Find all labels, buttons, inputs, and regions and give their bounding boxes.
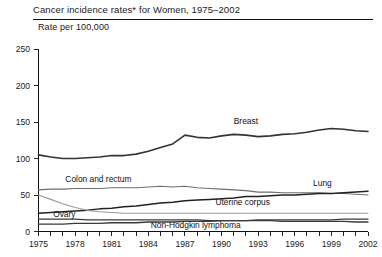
x-tick-label: 1981 <box>102 239 121 249</box>
x-axis-tick-labels: 1975197819811984198719901993199619992002 <box>29 239 378 249</box>
series-label-uterine-corpus: Uterine corpus <box>215 197 269 207</box>
x-tick-label: 1999 <box>322 239 341 249</box>
chart-page: Cancer incidence rates* for Women, 1975–… <box>0 0 382 257</box>
x-tick-label: 1990 <box>212 239 231 249</box>
x-tick-label: 2002 <box>358 239 377 249</box>
series-label-lung: Lung <box>313 178 332 188</box>
series-label-non-hodgkin-lymphoma: Non-Hodgkin lymphoma <box>151 220 241 230</box>
y-axis-ticks: 050100150200250 <box>16 44 39 237</box>
series-label-ovary: Ovary <box>53 209 76 219</box>
y-tick-label: 200 <box>16 81 31 91</box>
y-tick-label: 250 <box>16 44 31 54</box>
y-tick-label: 150 <box>16 117 31 127</box>
x-tick-label: 1975 <box>29 239 48 249</box>
series-line-uterine-corpus <box>39 195 369 213</box>
y-tick-label: 50 <box>20 190 30 200</box>
x-tick-label: 1993 <box>249 239 268 249</box>
y-tick-label: 100 <box>16 154 31 164</box>
x-tick-label: 1987 <box>175 239 194 249</box>
x-tick-label: 1978 <box>66 239 85 249</box>
line-chart: 050100150200250 BreastColon and rectumLu… <box>0 0 382 257</box>
y-tick-label: 0 <box>25 227 30 237</box>
series-label-colon-and-rectum: Colon and rectum <box>65 174 131 184</box>
x-tick-label: 1984 <box>139 239 158 249</box>
series-line-breast <box>39 129 369 159</box>
x-axis-ticks <box>39 232 369 236</box>
series-label-breast: Breast <box>234 116 259 126</box>
x-tick-label: 1996 <box>285 239 304 249</box>
